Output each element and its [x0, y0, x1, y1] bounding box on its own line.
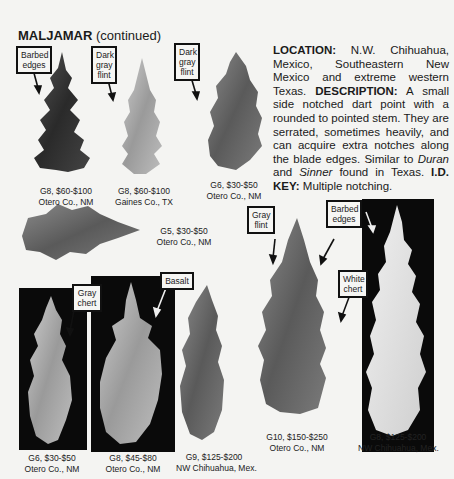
caption-specimen-5: G6, $30-$50Otero Co., NM: [22, 453, 82, 475]
grade-price: G6, $30-$50: [204, 180, 264, 191]
location: Otero Co., NM: [204, 191, 264, 202]
grade-price: G8, $125-$200: [358, 432, 438, 443]
caption-specimen-6: G8, $45-$80Otero Co., NM: [103, 453, 163, 475]
artifact-images: [0, 0, 454, 479]
grade-price: G8, $60-$100: [36, 186, 96, 197]
grade-price: G5, $30-$50: [154, 226, 214, 237]
caption-specimen-3: G6, $30-$50Otero Co., NM: [204, 180, 264, 202]
location: Gaines Co., TX: [114, 197, 174, 208]
caption-specimen-8: G10, $150-$250Otero Co., NM: [264, 432, 330, 454]
location: Otero Co., NM: [154, 237, 214, 248]
artifact-3: [208, 52, 262, 170]
artifact-4: [22, 204, 140, 260]
location: Otero Co., NM: [22, 464, 82, 475]
grade-price: G8, $60-$100: [114, 186, 174, 197]
callout-gray-flint: Gray flint: [247, 206, 275, 234]
callout-gray-chert: Gray chert: [72, 284, 102, 312]
artifact-9: [366, 205, 426, 436]
grade-price: G10, $150-$250: [264, 432, 330, 443]
artifact-5: [28, 296, 72, 444]
location: NW Chihuahua, Mex.: [176, 463, 252, 474]
caption-specimen-2: G8, $60-$100Gaines Co., TX: [114, 186, 174, 208]
location: Otero Co., NM: [36, 197, 96, 208]
callout-barbed-edges-2: Barbed edges: [326, 200, 362, 228]
artifact-8: [258, 218, 326, 414]
callout-white-chert: White chert: [338, 270, 368, 298]
artifact-2: [122, 58, 162, 174]
artifact-6: [100, 282, 162, 444]
callout-dark-gray-flint-2: Dark gray flint: [174, 43, 200, 81]
artifact-7: [180, 285, 224, 440]
caption-specimen-9: G8, $125-$200NW Chihuahua, Mex.: [358, 432, 438, 454]
location: Otero Co., NM: [103, 464, 163, 475]
location: NW Chihuahua, Mex.: [358, 443, 438, 454]
callout-barbed-edges-1: Barbed edges: [16, 46, 52, 74]
grade-price: G9, $125-$200: [176, 452, 252, 463]
caption-specimen-4: G5, $30-$50Otero Co., NM: [154, 226, 214, 248]
callout-dark-gray-flint-1: Dark gray flint: [91, 46, 117, 84]
caption-specimen-1: G8, $60-$100Otero Co., NM: [36, 186, 96, 208]
caption-specimen-7: G9, $125-$200NW Chihuahua, Mex.: [176, 452, 252, 474]
grade-price: G6, $30-$50: [22, 453, 82, 464]
callout-basalt: Basalt: [160, 272, 194, 290]
location: Otero Co., NM: [264, 443, 330, 454]
grade-price: G8, $45-$80: [103, 453, 163, 464]
